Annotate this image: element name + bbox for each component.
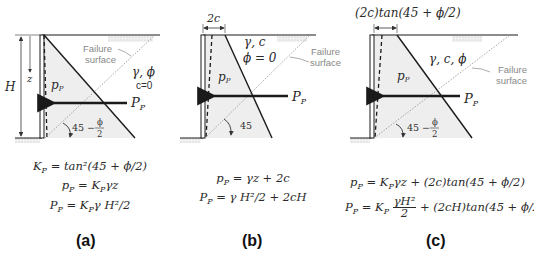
panel-a-angle-label: 45 − xyxy=(72,122,95,133)
panel-b-base-hatch xyxy=(180,138,200,143)
panel-c-top-dim-label: (2c)tan(45 + ϕ/2) xyxy=(355,6,461,20)
panel-b-equation-1: pP = γz + 2c xyxy=(198,171,308,190)
panel-a-equations: KP = tan²(45 + ϕ/2) pP = KPγz PP = KPγ H… xyxy=(30,159,150,217)
panel-c-caption: (c) xyxy=(426,232,446,250)
panel-a-base-hatch xyxy=(15,138,40,143)
panel-b-equation-2: PP = γ H²/2 + 2cH xyxy=(198,190,308,209)
panel-a-soil-label-2: c=0 xyxy=(136,80,153,91)
panel-c-soil-label-1: γ, c, ϕ xyxy=(429,52,466,66)
panel-a-angle-frac-den: 2 xyxy=(97,129,102,139)
panel-b-angle-label: 45 xyxy=(240,120,252,131)
panel-c-base-hatch xyxy=(350,138,370,143)
panel-c-wall xyxy=(370,35,374,138)
panel-c-angle-frac-num: ϕ xyxy=(432,117,438,127)
panel-a-force-label: PP xyxy=(130,95,146,112)
panel-c-angle-label: 45 − xyxy=(407,122,430,133)
panel-c-diagram: (2c)tan(45 + ϕ/2) γ, c, ϕ Failure surfac… xyxy=(350,6,527,143)
panel-a-height-label: H xyxy=(4,80,16,94)
panel-c-equation-2-fraction: γH²2 xyxy=(393,196,417,219)
panel-a-wall xyxy=(40,35,44,138)
panel-c-ground-hatch xyxy=(452,36,482,42)
panel-c-failure-leader xyxy=(472,68,490,72)
panel-b-wall xyxy=(201,35,205,138)
panel-c-failure-label-1: Failure xyxy=(498,64,527,75)
panel-b-soil-label-2: ϕ = 0 xyxy=(243,51,277,65)
panel-c-equation-1: pP = KPγz + (2c)tan(45 + ϕ/2) xyxy=(345,175,530,194)
panel-b-failure-label-1: Failure xyxy=(311,46,340,57)
panel-a-failure-label-2: surface xyxy=(85,54,116,65)
diagram-canvas: H z Failure surface γ, ϕ c=0 pP PP 45 − … xyxy=(0,0,534,260)
panel-a-equation-2: pP = KPγz xyxy=(30,178,150,197)
panel-a-diagram: H z Failure surface γ, ϕ c=0 pP PP 45 − … xyxy=(4,35,160,143)
panel-b-force-label: PP xyxy=(291,89,307,106)
panel-b-diagram: 2c γ, c ϕ = 0 Failure surface pP PP 45 xyxy=(180,12,341,143)
panel-b-equations: pP = γz + 2c PP = γ H²/2 + 2cH xyxy=(198,171,308,210)
panel-a-soil-label-1: γ, ϕ xyxy=(132,65,155,79)
panel-a-failure-label-1: Failure xyxy=(83,43,112,54)
panel-b-caption: (b) xyxy=(242,232,262,250)
panel-a-equation-3: PP = KPγ H²/2 xyxy=(30,198,150,217)
panel-a-ground-hatch xyxy=(108,36,153,42)
panel-c-equations: pP = KPγz + (2c)tan(45 + ϕ/2) PP = KP γH… xyxy=(345,175,530,219)
panel-c-force-label: PP xyxy=(463,91,479,108)
panel-c-angle-frac-den: 2 xyxy=(432,129,437,139)
panel-c-equation-2: PP = KP γH²2 + (2cH)tan(45 + ϕ/2) xyxy=(345,196,530,219)
panel-b-ground-hatch xyxy=(277,36,307,42)
panel-a-equation-1: KP = tan²(45 + ϕ/2) xyxy=(30,159,150,178)
panel-b-soil-label-1: γ, c xyxy=(244,35,266,49)
panel-a-depth-label: z xyxy=(26,73,33,84)
panel-b-failure-leader xyxy=(290,57,309,62)
panel-c-failure-label-2: surface xyxy=(496,75,527,86)
panel-a-caption: (a) xyxy=(76,232,96,250)
panel-a-failure-leader xyxy=(118,49,131,56)
panel-b-top-dim-label: 2c xyxy=(206,12,220,25)
panel-b-failure-label-2: surface xyxy=(310,57,341,68)
panel-a-angle-frac-num: ϕ xyxy=(97,117,103,127)
